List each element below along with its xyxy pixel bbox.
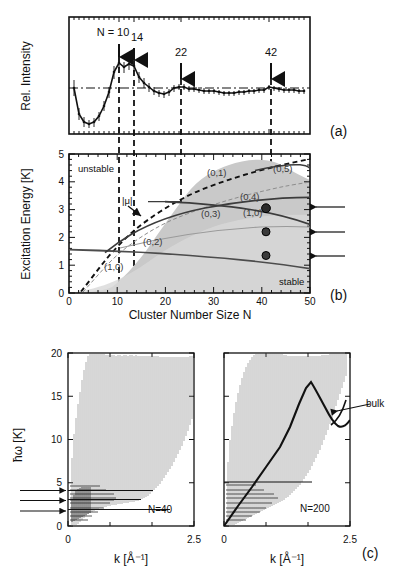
panel-c-bulk-curve: [224, 382, 350, 526]
panel-b-xtick-2: 20: [160, 296, 172, 307]
panel-a-label-n42: 42: [265, 46, 277, 58]
panel-b-stable-label: stable: [279, 276, 304, 287]
panel-b-ytick-0: 0: [58, 288, 64, 299]
panel-c-left-xtick-max: 2.5: [187, 534, 201, 545]
panel-b: Excitation Energy [K] 0 1 2 3: [19, 149, 347, 323]
panel-c-left-xtick-0: 0: [65, 534, 71, 545]
panel-b-ytick-3: 3: [58, 204, 64, 215]
panel-c-bulk-label: bulk: [366, 398, 385, 409]
panel-c-right-spectrum: [228, 350, 346, 526]
panel-b-xlabel: Cluster Number Size N: [129, 308, 252, 322]
panel-b-mode-04: (0,4): [240, 191, 260, 202]
panel-b-xtick-0: 0: [66, 296, 72, 307]
panel-b-mode-01: (0,1): [207, 167, 227, 178]
panel-c-left: 0 5 10 15 20 0 2.5 k [Å⁻¹]: [20, 348, 201, 567]
panel-b-x-ticklabels: 0 10 20 30 40 50: [66, 296, 316, 307]
panel-b-ytick-1: 1: [58, 260, 64, 271]
figure-root: Rel. Intensity: [0, 0, 393, 580]
panel-a-label-n14: 14: [131, 31, 143, 43]
panel-b-xtick-4: 40: [256, 296, 268, 307]
panel-a-tag: (a): [330, 123, 347, 139]
panel-b-y-ticklabels: 0 1 2 3 4 5: [58, 149, 64, 299]
panel-b-xtick-1: 10: [112, 296, 124, 307]
panel-b-unstable-label: unstable: [78, 163, 114, 174]
panel-c-ytick-0: 0: [56, 521, 62, 532]
panel-b-right-arrows: [316, 207, 345, 256]
panel-c-left-yticklabels: 0 5 10 15 20: [51, 348, 63, 532]
panel-b-ytick-5: 5: [58, 149, 64, 160]
panel-b-marker-2: [262, 228, 270, 236]
panel-b-mode-10-lower: (1,0): [104, 261, 124, 272]
panel-a: Rel. Intensity: [19, 17, 347, 139]
panel-a-ylabel: Rel. Intensity: [19, 41, 33, 110]
panel-b-ytick-4: 4: [58, 176, 64, 187]
panel-b-mode-02: (0,2): [143, 236, 163, 247]
panel-b-mode-10-upper: (1,0): [243, 207, 263, 218]
panel-c-ylabel: ħω [K]: [11, 428, 25, 462]
panel-a-data-curve: [74, 63, 304, 124]
panel-b-tag: (b): [330, 287, 347, 303]
panel-c-tag: (c): [362, 545, 378, 561]
panel-b-mode-05: (0,5): [273, 163, 293, 174]
panel-b-ylabel: Excitation Energy [K]: [19, 168, 33, 279]
panel-a-bottom-ticks: [74, 129, 304, 134]
panel-c-ytick-20: 20: [51, 348, 63, 359]
figure-svg: Rel. Intensity: [0, 0, 393, 580]
panel-c: ħω [K] 0 5 10 15 20 0 2.5 k [Å⁻¹]: [11, 348, 385, 567]
panel-c-right-xtick-max: 2.5: [343, 534, 357, 545]
panel-c-left-low-bands: [70, 486, 116, 522]
panel-b-mode-03: (0,3): [201, 208, 221, 219]
panel-a-label-n22: 22: [175, 46, 187, 58]
panel-c-ytick-10: 10: [51, 434, 63, 445]
panel-b-mu-label: |μ|: [122, 195, 132, 206]
panel-c-ytick-5: 5: [56, 477, 62, 488]
panel-c-right: 0 2.5 k [Å⁻¹] N=200: [221, 350, 357, 566]
panel-c-right-xlabel: k [Å⁻¹]: [270, 551, 304, 566]
panel-c-ytick-15: 15: [51, 391, 63, 402]
panel-c-left-label: N=40: [148, 504, 173, 515]
panel-c-right-xtick-0: 0: [221, 534, 227, 545]
panel-c-right-label: N=200: [300, 503, 330, 514]
panel-b-xtick-5: 50: [304, 296, 316, 307]
panel-b-ytick-2: 2: [58, 232, 64, 243]
panel-c-left-xlabel: k [Å⁻¹]: [114, 551, 148, 566]
panel-a-top-ticks: [74, 17, 304, 22]
panel-a-peak-arrows: [119, 44, 271, 79]
panel-b-marker-1: [262, 204, 271, 213]
panel-c-left-arrows: [20, 491, 66, 512]
panel-b-xtick-3: 30: [208, 296, 220, 307]
panel-a-label-n10: N = 10: [97, 26, 130, 38]
panel-b-marker-3: [262, 252, 270, 260]
